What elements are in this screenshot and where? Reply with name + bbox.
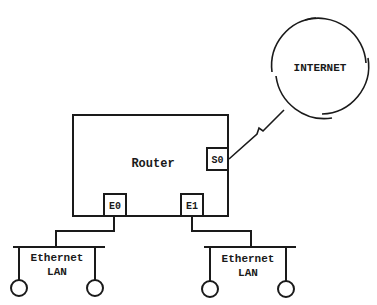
- internet-cloud: INTERNET: [272, 18, 369, 119]
- internet-arc-top: [305, 18, 366, 63]
- network-diagram: INTERNET Router S0 E0 E1 Ethernet LAN Et…: [0, 0, 377, 305]
- interface-e1-label: E1: [186, 201, 198, 212]
- internet-label: INTERNET: [294, 62, 347, 74]
- lan-right: Ethernet LAN: [192, 216, 295, 297]
- e1-to-lan-link: [192, 216, 251, 247]
- serial-link: [229, 110, 284, 159]
- lan-left: Ethernet LAN: [11, 216, 114, 296]
- router-label: Router: [131, 157, 174, 171]
- host-icon: [87, 280, 103, 296]
- lan-left-label-line2: LAN: [47, 266, 67, 278]
- e0-to-lan-link: [56, 216, 114, 247]
- internet-arc-bottom: [276, 76, 332, 119]
- lan-left-label-line1: Ethernet: [31, 252, 84, 264]
- interface-e0-label: E0: [109, 201, 121, 212]
- lan-right-label-line1: Ethernet: [222, 253, 275, 265]
- host-icon: [11, 280, 27, 296]
- lan-right-label-line2: LAN: [238, 267, 258, 279]
- router: Router S0 E0 E1: [73, 115, 228, 216]
- host-icon: [202, 281, 218, 297]
- interface-s0-label: S0: [211, 155, 223, 166]
- host-icon: [278, 281, 294, 297]
